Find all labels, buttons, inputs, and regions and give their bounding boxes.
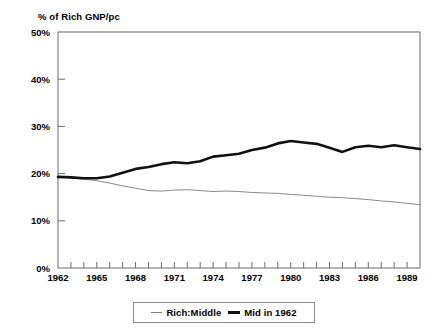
x-axis-tick-label: 1986 xyxy=(358,272,379,283)
x-axis-tick-label: 1983 xyxy=(319,272,340,283)
x-axis-tick-label: 1980 xyxy=(280,272,301,283)
y-axis-tick-label: 10% xyxy=(31,215,51,226)
y-axis-tick-label: 20% xyxy=(31,168,51,179)
plot-frame xyxy=(58,32,420,268)
legend-item-rich-middle[interactable]: Rich:Middle xyxy=(151,307,221,318)
y-axis-tick-label: 30% xyxy=(31,121,51,132)
thin-line-swatch-icon xyxy=(151,312,162,313)
x-axis-tick-label: 1965 xyxy=(86,272,108,283)
x-axis-tick-label: 1974 xyxy=(203,272,225,283)
x-axis-tick-label: 1968 xyxy=(125,272,146,283)
legend-item-mid-in-1962[interactable]: Mid in 1962 xyxy=(228,307,296,318)
chart-page: % of Rich GNP/pc 0%10%20%30%40%50%196219… xyxy=(0,0,448,335)
x-axis-tick-label: 1962 xyxy=(47,272,68,283)
x-axis-tick-label: 1989 xyxy=(397,272,418,283)
plot-container: 0%10%20%30%40%50%19621965196819711974197… xyxy=(0,0,448,335)
legend-label-mid-in-1962: Mid in 1962 xyxy=(244,307,296,318)
series-line-rich-middle xyxy=(58,177,420,205)
y-axis-tick-label: 50% xyxy=(31,27,51,38)
line-chart: 0%10%20%30%40%50%19621965196819711974197… xyxy=(0,0,448,335)
chart-legend: Rich:Middle Mid in 1962 xyxy=(133,302,315,323)
x-axis-tick-label: 1977 xyxy=(241,272,262,283)
y-axis-tick-label: 40% xyxy=(31,74,51,85)
legend-label-rich-middle: Rich:Middle xyxy=(166,307,221,318)
thick-line-swatch-icon xyxy=(228,311,240,314)
series-line-mid-in-1962 xyxy=(58,141,420,178)
x-axis-tick-label: 1971 xyxy=(164,272,186,283)
